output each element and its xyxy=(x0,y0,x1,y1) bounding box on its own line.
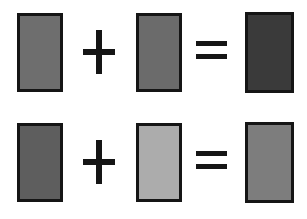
equation-row-1 xyxy=(0,0,307,109)
plus-icon-vertical-bar xyxy=(96,140,102,184)
equals-icon xyxy=(196,151,227,172)
swatch-row1-operand-a xyxy=(17,13,63,92)
swatch-row1-operand-b xyxy=(136,13,182,92)
swatch-row1-result xyxy=(245,12,294,93)
swatch-row2-operand-b xyxy=(136,123,182,202)
figure-canvas xyxy=(0,0,307,219)
swatch-row2-operand-a xyxy=(17,123,63,202)
equals-icon-top-bar xyxy=(196,41,227,46)
equals-icon-bottom-bar xyxy=(196,54,227,59)
plus-icon xyxy=(83,140,115,184)
equals-icon xyxy=(196,41,227,62)
plus-icon-vertical-bar xyxy=(96,30,102,74)
swatch-row2-result xyxy=(245,122,294,203)
equals-icon-top-bar xyxy=(196,151,227,156)
equals-icon-bottom-bar xyxy=(196,164,227,169)
plus-icon xyxy=(83,30,115,74)
equation-row-2 xyxy=(0,110,307,219)
